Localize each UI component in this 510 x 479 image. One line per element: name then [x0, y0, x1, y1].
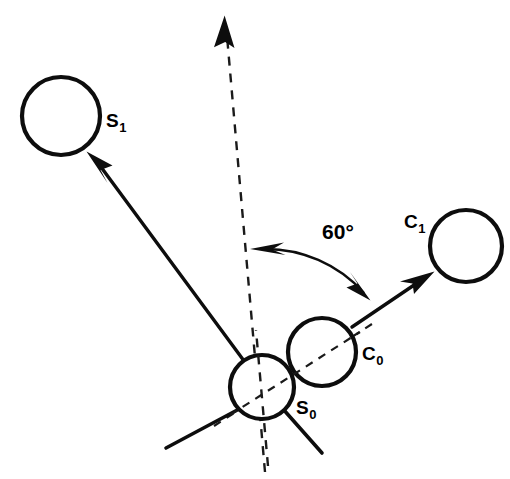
c0-circle — [288, 318, 356, 386]
arc-right-arrowhead-icon — [347, 272, 371, 301]
c1-velocity-arrow-group — [352, 272, 435, 328]
s1-velocity-arrow-shaft — [98, 163, 264, 388]
c1-velocity-arrow-shaft — [352, 279, 423, 327]
sixty-degree-arc — [263, 249, 364, 293]
diagram-canvas: 60° S1 C1 C0 S0 — [0, 0, 510, 479]
c0-label-base: C — [362, 343, 376, 364]
c1-label: C1 — [404, 211, 425, 236]
c0-label: C0 — [362, 343, 383, 368]
s0-label: S0 — [296, 397, 316, 422]
angle-label: 60° — [322, 220, 354, 243]
s1-label: S1 — [106, 110, 126, 135]
incident-axis-arrowhead-icon — [214, 16, 235, 49]
s1-velocity-arrow-group — [87, 152, 265, 389]
collision-geometry-figure: 60° S1 C1 C0 S0 — [0, 0, 510, 479]
c0-label-sub: 0 — [376, 353, 383, 368]
s1-circle — [22, 77, 100, 155]
s1-label-base: S — [106, 110, 119, 131]
c1-label-sub: 1 — [418, 221, 425, 236]
c1-label-base: C — [404, 211, 418, 232]
s1-label-sub: 1 — [119, 120, 126, 135]
c1-circle — [430, 210, 502, 282]
s0-label-base: S — [296, 397, 309, 418]
s0-label-sub: 0 — [309, 407, 316, 422]
sixty-degree-arc-group — [250, 243, 371, 301]
